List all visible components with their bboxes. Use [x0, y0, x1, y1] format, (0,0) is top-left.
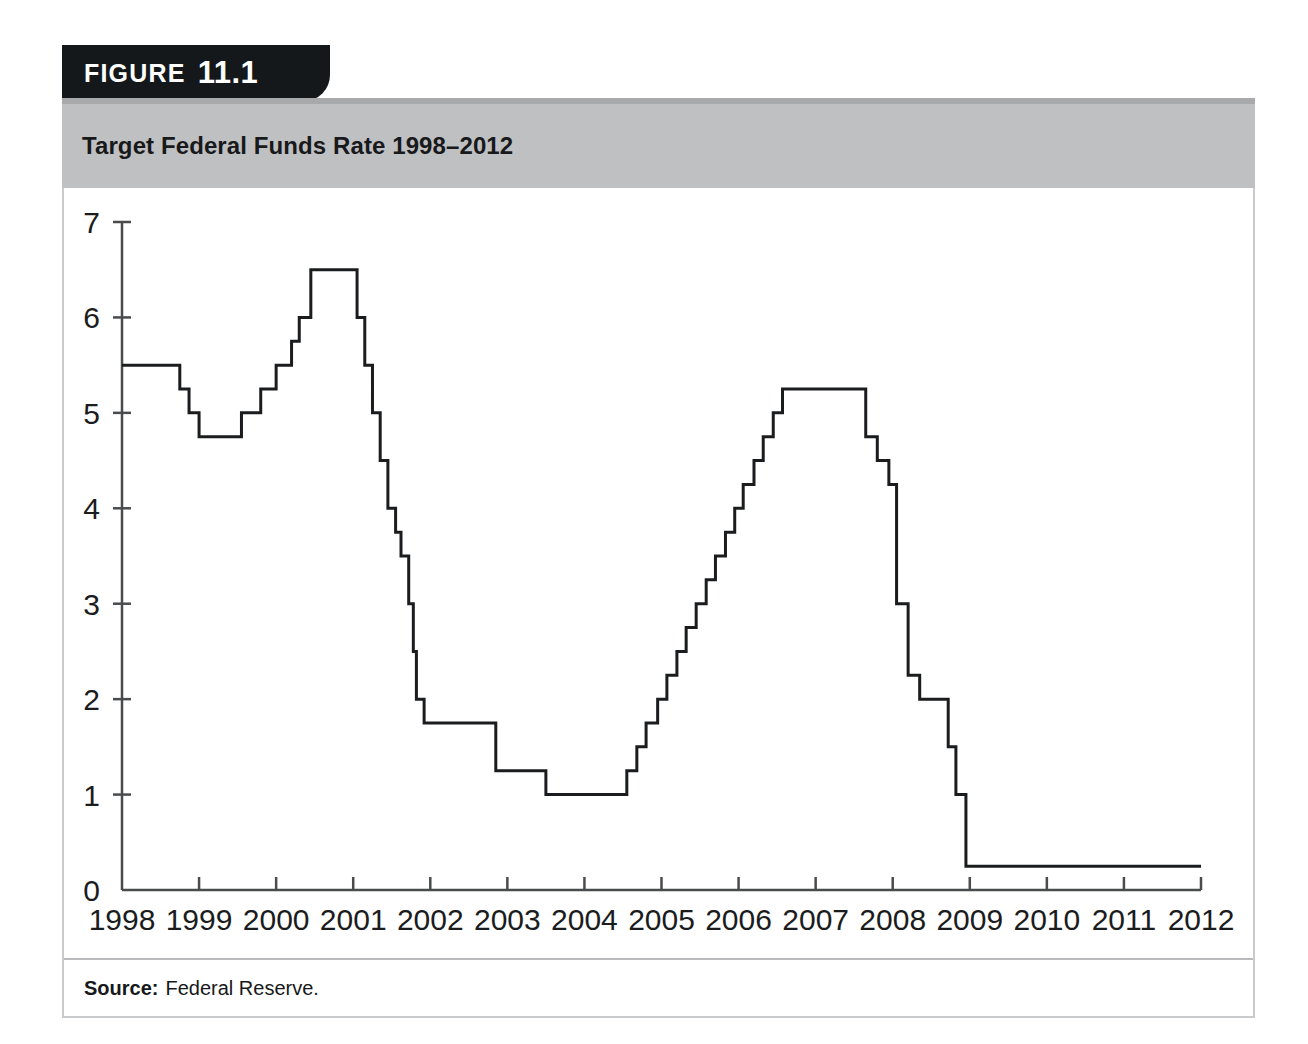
x-axis-tick-label: 1998 [89, 903, 156, 936]
y-axis-tick-label: 2 [83, 683, 100, 716]
y-axis-tick-label: 4 [83, 492, 100, 525]
line-chart: 01234567 1998199920002001200220032004200… [64, 188, 1253, 956]
x-axis-tick-label: 2006 [705, 903, 772, 936]
figure-root: FIGURE 11.1 Target Federal Funds Rate 19… [0, 0, 1308, 1044]
figure-tab-number: 11.1 [198, 55, 259, 91]
x-axis-tick-label: 2005 [628, 903, 695, 936]
figure-tab-word: FIGURE [84, 59, 186, 88]
y-axis-tick-label: 6 [83, 301, 100, 334]
chart-series [122, 270, 1201, 866]
series-line [122, 270, 1201, 866]
y-axis-tick-label: 1 [83, 779, 100, 812]
y-axis-tick-label: 3 [83, 588, 100, 621]
chart-plot-area: 01234567 1998199920002001200220032004200… [64, 188, 1253, 956]
x-axis-tick-label: 2003 [474, 903, 541, 936]
source-text: Federal Reserve. [165, 977, 318, 1000]
x-axis-tick-label: 2008 [859, 903, 926, 936]
x-axis-tick-label: 2012 [1168, 903, 1235, 936]
source-label: Source: [84, 977, 158, 1000]
x-axis-tick-label: 2009 [936, 903, 1003, 936]
figure-card: 01234567 1998199920002001200220032004200… [62, 188, 1255, 1018]
y-axis-tick-label: 7 [83, 206, 100, 239]
x-axis-tick-label: 2004 [551, 903, 618, 936]
figure-title-band: Target Federal Funds Rate 1998–2012 [62, 98, 1255, 188]
y-axis: 01234567 [83, 206, 131, 907]
x-axis-tick-label: 1999 [166, 903, 233, 936]
source-band: Source: Federal Reserve. [64, 958, 1253, 1016]
y-axis-tick-label: 5 [83, 397, 100, 430]
x-axis: 1998199920002001200220032004200520062007… [89, 877, 1235, 936]
x-axis-tick-label: 2002 [397, 903, 464, 936]
x-axis-tick-label: 2000 [243, 903, 310, 936]
x-axis-tick-label: 2010 [1013, 903, 1080, 936]
figure-number-tab: FIGURE 11.1 [62, 45, 330, 101]
figure-title: Target Federal Funds Rate 1998–2012 [62, 132, 513, 160]
x-axis-tick-label: 2001 [320, 903, 387, 936]
x-axis-tick-label: 2011 [1092, 903, 1157, 936]
x-axis-tick-label: 2007 [782, 903, 849, 936]
